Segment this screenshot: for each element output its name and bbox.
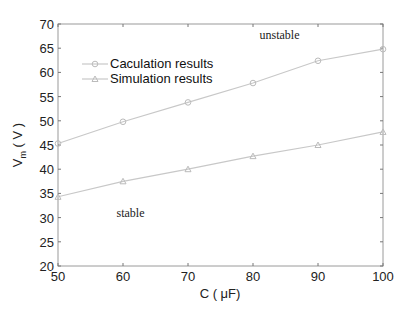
y-axis-label-main: V [10,158,25,167]
x-axis-label: C ( μF) [200,286,241,301]
y-tick-label: 55 [40,90,54,105]
x-tick-label: 70 [181,269,195,284]
legend-entry-label: Caculation results [110,56,214,71]
x-tick-label: 50 [51,269,65,284]
y-tick-label: 50 [40,114,54,129]
y-tick-label: 70 [40,17,54,32]
y-tick-label: 35 [40,186,54,201]
y-tick-label: 65 [40,41,54,56]
plot-frame [58,24,383,266]
legend-entry-label: Simulation results [110,71,213,86]
y-tick-label: 25 [40,235,54,250]
y-tick-label: 45 [40,138,54,153]
y-axis-label: Vm ( V ) [10,123,28,167]
annotation-stable: stable [117,206,145,220]
legend: Caculation resultsSimulation results [82,56,214,86]
plot-series [55,46,386,199]
x-tick-label: 90 [311,269,325,284]
y-tick-label: 40 [40,162,54,177]
annotation-unstable: unstable [260,28,300,42]
chart: 20253035404550556065705060708090100 Cacu… [0,0,407,314]
series-line [58,132,383,197]
x-tick-label: 100 [372,269,394,284]
series-line [58,49,383,143]
y-tick-label: 60 [40,65,54,80]
x-tick-label: 60 [116,269,130,284]
y-tick-label: 30 [40,211,54,226]
x-tick-label: 80 [246,269,260,284]
y-axis-label-unit: ( V ) [10,123,25,151]
y-axis-label-sub: m [18,151,28,159]
